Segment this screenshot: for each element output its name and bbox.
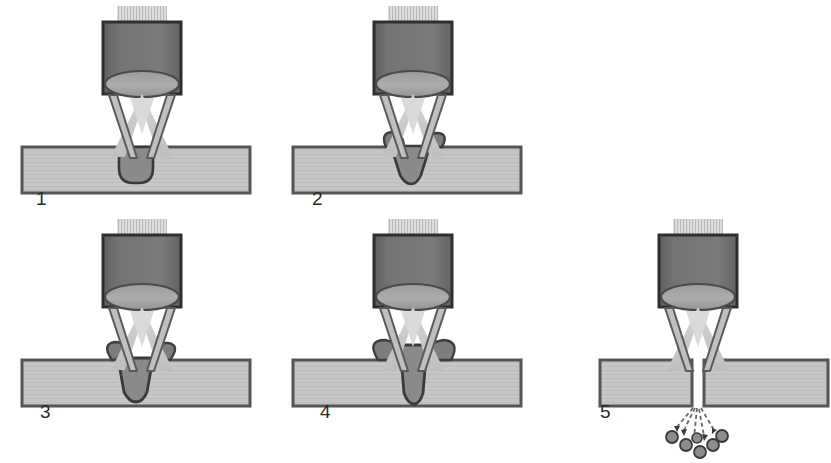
stage-label-5: 5 xyxy=(600,401,611,422)
figure-canvas: 1 2 3 4 xyxy=(0,0,831,463)
stage-1-group: 1 xyxy=(22,6,250,209)
stage-label-3: 3 xyxy=(40,401,51,422)
stage-4-group: 4 xyxy=(293,219,521,422)
stage-3-group: 3 xyxy=(22,219,250,422)
stage-2-group: 2 xyxy=(293,6,521,209)
stage-label-1: 1 xyxy=(36,188,47,209)
ejected-droplets xyxy=(666,430,728,458)
stage-label-2: 2 xyxy=(312,188,323,209)
stage-5-group: 5 xyxy=(600,219,828,458)
laser-process-diagram: 1 2 3 4 xyxy=(0,0,831,463)
stage-label-4: 4 xyxy=(320,401,331,422)
